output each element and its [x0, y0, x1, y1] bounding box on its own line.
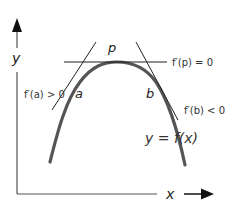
y-axis-arrow-icon — [12, 18, 22, 32]
function-label: y = f(x) — [144, 130, 198, 146]
x-axis-arrow-icon — [201, 189, 214, 200]
x-axis-label: x — [165, 186, 175, 202]
function-curve — [50, 62, 185, 165]
slope-p-annotation: f′(p) = 0 — [172, 57, 213, 68]
x-axis — [17, 189, 214, 200]
tangent-line-b — [136, 42, 178, 120]
diagram-canvas: y x a p b f′(a) > 0 f′(p) = 0 f′(b) < 0 … — [0, 0, 234, 207]
point-p-label: p — [107, 40, 116, 55]
slope-a-annotation: f′(a) > 0 — [24, 89, 65, 100]
point-b-label: b — [146, 86, 154, 101]
y-axis-label: y — [11, 50, 21, 66]
y-axis — [12, 18, 22, 194]
slope-b-annotation: f′(b) < 0 — [184, 105, 225, 116]
point-a-label: a — [75, 86, 83, 101]
